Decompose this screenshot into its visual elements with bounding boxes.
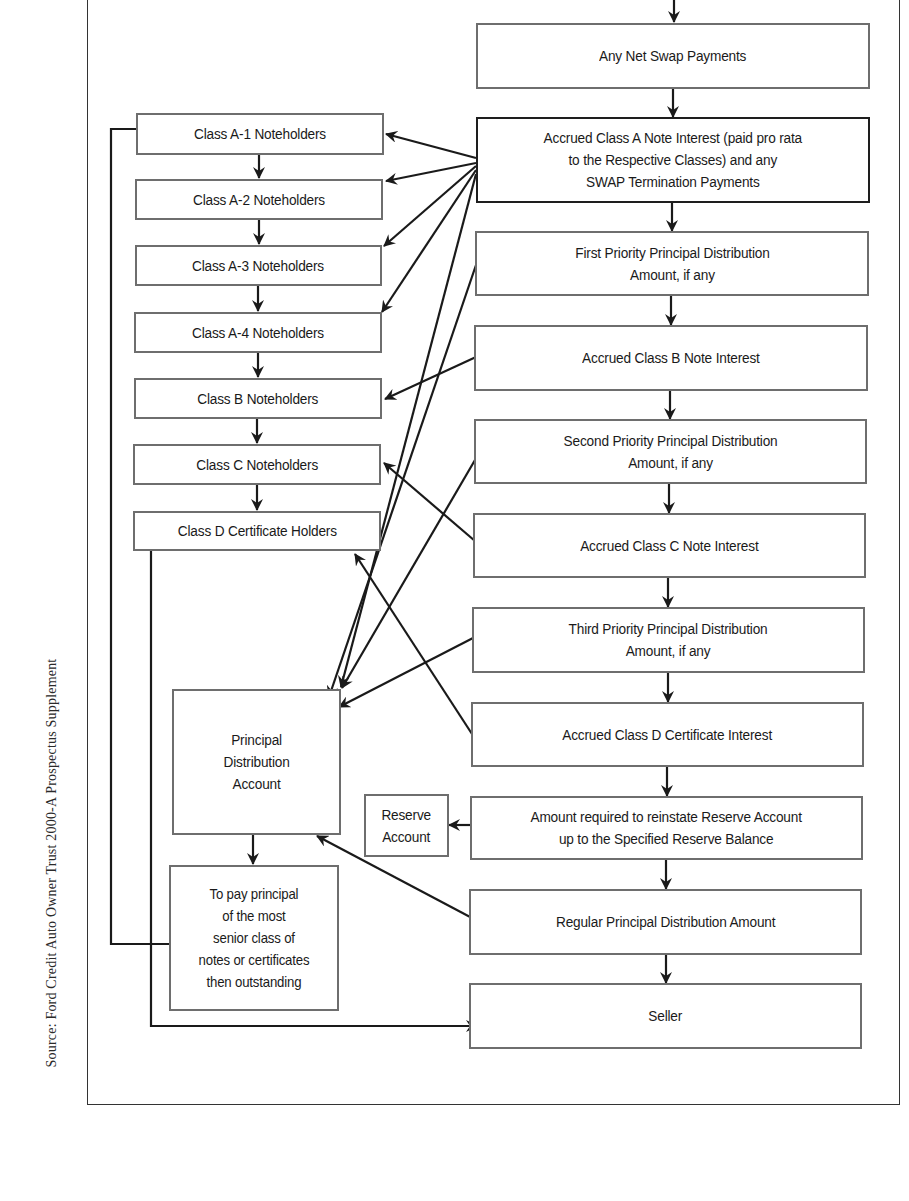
waterfall-diagram: Source: Ford Credit Auto Owner Trust 200… [0, 0, 909, 1201]
reserve-account-box: Reserve Account [364, 794, 449, 857]
third-priority-box: Third Priority Principal Distribution Am… [472, 607, 865, 673]
class-a2-noteholders-box: Class A-2 Noteholders [135, 179, 383, 220]
net-swap-payments-box: Any Net Swap Payments [476, 23, 870, 89]
box-label: Amount required to reinstate Reserve Acc… [531, 806, 802, 850]
pay-principal-box: To pay principal of the most senior clas… [169, 865, 339, 1011]
box-label: To pay principal of the most senior clas… [199, 883, 310, 993]
principal-distribution-account-box: Principal Distribution Account [172, 689, 341, 835]
box-label: Regular Principal Distribution Amount [556, 911, 775, 933]
box-label: Any Net Swap Payments [599, 45, 746, 67]
box-label: Accrued Class C Note Interest [580, 535, 758, 557]
seller-box: Seller [469, 983, 862, 1049]
class-b-interest-box: Accrued Class B Note Interest [474, 325, 868, 391]
class-a3-noteholders-box: Class A-3 Noteholders [135, 245, 382, 286]
class-d-interest-box: Accrued Class D Certificate Interest [471, 702, 864, 767]
box-label: Class C Noteholders [196, 454, 318, 476]
box-label: Class A-3 Noteholders [192, 255, 324, 277]
arrow-class-c-interest-to-c [384, 463, 475, 541]
arrow-second-priority-to-pda [342, 460, 475, 688]
box-label: Second Priority Principal Distribution A… [564, 430, 778, 474]
box-label: First Priority Principal Distribution Am… [575, 242, 769, 286]
arrow-class-d-interest-to-d [355, 554, 472, 734]
class-a4-noteholders-box: Class A-4 Noteholders [134, 312, 382, 353]
class-c-noteholders-box: Class C Noteholders [133, 444, 381, 485]
box-label: Class B Noteholders [198, 388, 319, 410]
box-label: Class A-1 Noteholders [194, 123, 326, 145]
box-label: Class A-4 Noteholders [192, 322, 324, 344]
class-a-interest-box: Accrued Class A Note Interest (paid pro … [476, 117, 870, 203]
box-label: Reserve Account [382, 804, 432, 848]
box-label: Accrued Class D Certificate Interest [563, 724, 773, 746]
class-a1-noteholders-box: Class A-1 Noteholders [136, 113, 384, 155]
class-c-interest-box: Accrued Class C Note Interest [473, 513, 866, 578]
box-label: Class A-2 Noteholders [193, 189, 325, 211]
second-priority-box: Second Priority Principal Distribution A… [474, 419, 867, 484]
class-b-noteholders-box: Class B Noteholders [134, 378, 382, 419]
arrow-class-a-to-a1 [386, 134, 476, 158]
box-label: Seller [649, 1005, 683, 1027]
reserve-reinstate-box: Amount required to reinstate Reserve Acc… [470, 796, 863, 860]
box-label: Accrued Class A Note Interest (paid pro … [544, 127, 802, 193]
box-label: Principal Distribution Account [223, 729, 289, 795]
first-priority-box: First Priority Principal Distribution Am… [475, 231, 869, 296]
class-d-certificate-holders-box: Class D Certificate Holders [133, 511, 381, 551]
box-label: Class D Certificate Holders [178, 520, 337, 542]
arrow-class-b-interest-to-b [385, 357, 476, 399]
box-label: Third Priority Principal Distribution Am… [569, 618, 768, 662]
box-label: Accrued Class B Note Interest [582, 347, 760, 369]
regular-principal-box: Regular Principal Distribution Amount [469, 889, 862, 955]
arrow-class-a-to-a4 [382, 170, 476, 312]
arrow-third-priority-to-pda [339, 638, 473, 707]
